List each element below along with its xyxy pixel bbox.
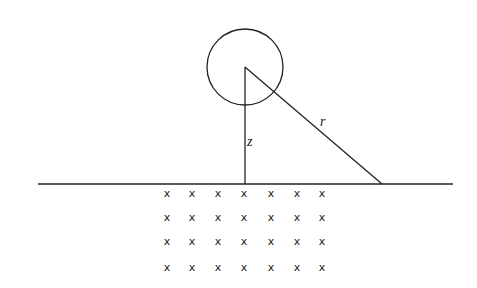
r-distance-line	[245, 67, 382, 184]
x-marker: x	[189, 235, 196, 248]
x-marker-grid: xxxxxxxxxxxxxxxxxxxxxxxxxxxx	[164, 187, 326, 274]
x-marker: x	[319, 261, 326, 274]
x-marker: x	[319, 187, 326, 200]
x-marker: x	[215, 235, 222, 248]
x-marker: x	[189, 261, 196, 274]
x-marker: x	[164, 187, 171, 200]
r-label: r	[320, 114, 326, 129]
x-marker: x	[189, 187, 196, 200]
x-marker: x	[215, 187, 222, 200]
x-marker: x	[268, 261, 275, 274]
diagram-canvas: z r xxxxxxxxxxxxxxxxxxxxxxxxxxxx	[0, 0, 477, 288]
x-marker: x	[215, 261, 222, 274]
x-marker: x	[164, 261, 171, 274]
x-marker: x	[215, 211, 222, 224]
x-marker: x	[268, 187, 275, 200]
z-label: z	[246, 134, 253, 149]
x-marker: x	[268, 211, 275, 224]
x-marker: x	[189, 211, 196, 224]
x-marker: x	[268, 235, 275, 248]
x-marker: x	[319, 211, 326, 224]
x-marker: x	[294, 261, 301, 274]
x-marker: x	[241, 211, 248, 224]
x-marker: x	[294, 235, 301, 248]
x-marker: x	[319, 235, 326, 248]
x-marker: x	[164, 235, 171, 248]
x-marker: x	[294, 211, 301, 224]
x-marker: x	[294, 187, 301, 200]
x-marker: x	[241, 187, 248, 200]
x-marker: x	[241, 235, 248, 248]
x-marker: x	[241, 261, 248, 274]
x-marker: x	[164, 211, 171, 224]
